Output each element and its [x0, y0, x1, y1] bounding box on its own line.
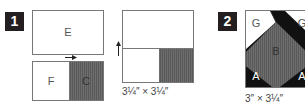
step-1-after	[116, 11, 194, 83]
piece-c-joined	[159, 49, 193, 82]
step-1-before: E F C	[33, 11, 104, 101]
piece-g-left-label: G	[252, 17, 261, 29]
piece-f-label: F	[48, 75, 55, 87]
step-2-badge: 2	[218, 12, 237, 31]
arrow-up-icon	[116, 41, 121, 56]
piece-b-label: B	[272, 45, 279, 57]
arrow-right-icon	[65, 55, 77, 60]
piece-a-right-label: A	[298, 70, 305, 82]
piece-g-right-label: G	[298, 17, 305, 29]
piece-a-left-label: A	[252, 70, 260, 82]
piece-c-label: C	[82, 75, 90, 87]
step-2-size-caption: 3″ × 3¼″	[245, 93, 283, 104]
piece-e-label: E	[64, 26, 71, 38]
step-1-size-caption: 3¼″ × 3¼″	[122, 86, 168, 97]
